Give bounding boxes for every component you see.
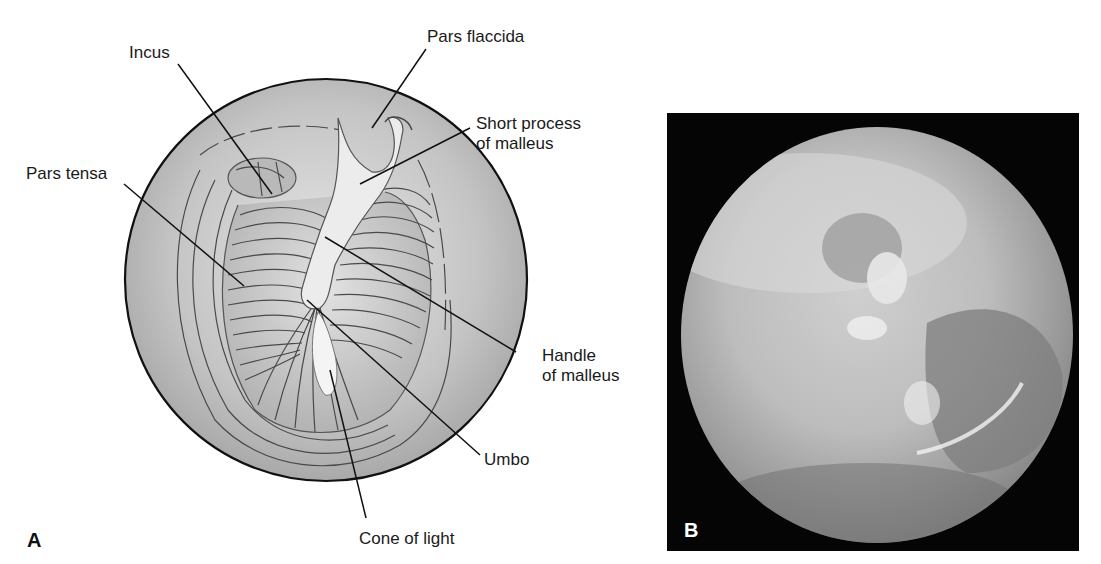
tympanic-membrane-illustration (0, 0, 660, 564)
label-incus: Incus (129, 43, 170, 63)
eardrum-photo-image (667, 113, 1079, 551)
label-pars-tensa: Pars tensa (26, 164, 107, 184)
panel-label-b: B (684, 519, 698, 542)
label-pars-flaccida: Pars flaccida (427, 27, 524, 47)
label-cone-of-light: Cone of light (359, 529, 454, 549)
label-short-process-line1: Short process (476, 114, 581, 134)
label-umbo: Umbo (484, 450, 529, 470)
label-handle-of-malleus: Handle of malleus (542, 346, 619, 386)
label-handle-line2: of malleus (542, 366, 619, 386)
label-handle-line1: Handle (542, 346, 619, 366)
otoscopic-photo: B (667, 113, 1079, 551)
figure: Incus Pars flaccida Short process of mal… (0, 0, 1101, 564)
label-short-process-line2: of malleus (476, 134, 581, 154)
panel-label-a: A (27, 529, 41, 552)
label-short-process: Short process of malleus (476, 114, 581, 154)
